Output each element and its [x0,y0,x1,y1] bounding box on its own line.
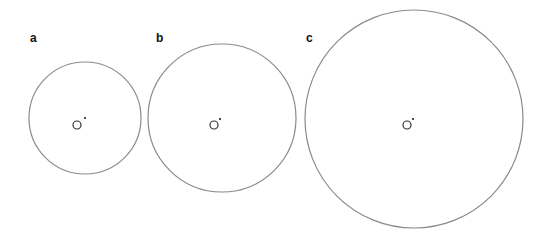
panel-a [29,62,141,174]
panel-label-a: a [30,32,37,44]
center-dot-b [219,118,221,120]
inner-circle-a [73,121,81,129]
inner-circle-b [210,121,218,129]
panel-label-b: b [156,32,163,44]
outer-circle-b [148,44,296,192]
diagram-canvas [0,0,552,245]
panel-label-c: c [306,32,313,44]
center-dot-c [412,118,414,120]
panel-b [148,44,296,192]
panel-c [305,10,523,228]
inner-circle-c [403,121,411,129]
center-dot-a [84,117,86,119]
